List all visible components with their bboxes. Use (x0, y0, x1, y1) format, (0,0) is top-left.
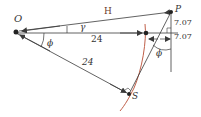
phi-arc-left (41, 33, 44, 47)
line-p-to-s (129, 12, 171, 94)
label-7-07-lower: 7.07 (174, 33, 192, 41)
diagram-canvas (0, 0, 201, 117)
label-gamma: γ (80, 23, 85, 32)
label-24-horizontal: 24 (91, 35, 102, 44)
point-s (127, 92, 131, 96)
label-o: O (14, 14, 22, 24)
label-phi-right: ϕ (156, 49, 162, 58)
point-p (169, 10, 173, 14)
label-7-07-upper: 7.07 (174, 19, 192, 27)
label-s: S (132, 92, 138, 101)
point-on-curve (144, 31, 149, 36)
label-p: P (175, 5, 181, 14)
label-24-os: 24 (82, 58, 93, 67)
label-phi-left: ϕ (47, 39, 53, 48)
label-h: H (104, 7, 112, 16)
point-o (14, 30, 19, 35)
